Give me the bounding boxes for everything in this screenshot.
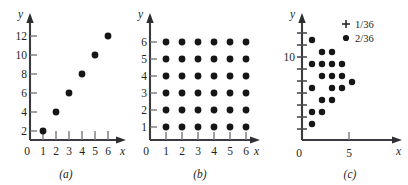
data-point (179, 107, 186, 114)
panel-c-y-tick-label: 10 (284, 51, 296, 63)
data-point (92, 52, 99, 59)
panel-a-y-axis-label: y (17, 8, 24, 21)
panel-c: y x 10 5 0 (262, 0, 408, 185)
panel-b-x-tick-label: 6 (243, 145, 249, 157)
data-point (309, 61, 315, 67)
panel-a-x-axis-arrow (116, 136, 126, 143)
panel-b-y-axis-arrow (146, 13, 153, 23)
legend-dot-icon (343, 35, 349, 41)
data-point (163, 56, 170, 63)
data-point (163, 39, 170, 46)
panel-a-origin-label: 0 (24, 145, 30, 157)
panel-c-data-points (309, 37, 355, 127)
panel-c-x-axis-label: x (395, 145, 402, 157)
data-point (339, 61, 345, 67)
data-point (339, 73, 345, 79)
legend-label-2-36: 2/36 (355, 33, 374, 44)
panel-b-y-tick-label: 5 (141, 53, 147, 65)
panel-b-x-axis-label: x (253, 145, 260, 157)
panel-b-x-tick-label: 3 (195, 145, 201, 157)
data-point (195, 73, 202, 80)
panel-a-x-tick-label: 2 (53, 145, 59, 157)
data-point (329, 85, 335, 91)
data-point (309, 37, 315, 43)
data-point (211, 124, 218, 131)
data-point (179, 90, 186, 97)
data-point (227, 124, 234, 131)
data-point (227, 73, 234, 80)
data-point (211, 107, 218, 114)
data-point (319, 97, 325, 103)
data-point (309, 121, 315, 127)
panel-c-caption: (c) (344, 168, 357, 181)
data-point (179, 39, 186, 46)
data-point (227, 90, 234, 97)
panel-a-y-tick-label: 12 (16, 30, 28, 42)
panel-a-y-tick-label: 8 (21, 68, 27, 80)
data-point (243, 124, 250, 131)
data-point (339, 85, 345, 91)
panel-b-data-points (163, 39, 250, 131)
data-point (195, 124, 202, 131)
data-point (227, 39, 234, 46)
panel-a-y-tick-label: 6 (21, 87, 27, 99)
panel-a-data-points (40, 33, 112, 135)
panel-b-y-tick-label: 2 (141, 104, 147, 116)
data-point (79, 71, 86, 78)
panel-b-x-axis-arrow (250, 136, 260, 143)
panel-b-x-tick-label: 1 (163, 145, 169, 157)
panel-a-x-tick-label: 1 (40, 145, 46, 157)
data-point (227, 107, 234, 114)
data-point (319, 73, 325, 79)
data-point (329, 73, 335, 79)
data-point (329, 61, 335, 67)
panel-b-y-tick-label: 3 (141, 87, 147, 99)
data-point (211, 90, 218, 97)
data-point (243, 39, 250, 46)
panel-a-x-tick-label: 3 (66, 145, 72, 157)
data-point (53, 109, 60, 116)
data-point (211, 73, 218, 80)
data-point (243, 73, 250, 80)
data-point (329, 49, 335, 55)
data-point (319, 61, 325, 67)
data-point (227, 56, 234, 63)
data-point (195, 39, 202, 46)
panel-b-y-axis-label: y (137, 8, 144, 21)
panel-a-y-tick-label: 2 (21, 125, 27, 137)
panel-c-legend: 1/36 2/36 (342, 19, 374, 44)
data-point (243, 90, 250, 97)
panel-c-plot: y x 10 5 0 (262, 0, 408, 185)
data-point (349, 79, 355, 85)
data-point (195, 56, 202, 63)
panel-b-y-tick-label: 6 (141, 36, 147, 48)
data-point (163, 90, 170, 97)
panel-b-x-tick-label: 4 (211, 145, 217, 157)
data-point (105, 33, 112, 40)
data-point (309, 85, 315, 91)
figure-container: y x 2 4 6 8 10 12 1 2 3 (0, 0, 408, 185)
data-point (319, 109, 325, 115)
panel-c-x-tick-label: 5 (346, 147, 352, 159)
panel-c-y-axis-arrow (298, 13, 305, 23)
data-point (163, 107, 170, 114)
panel-b-plot: y x 1 2 3 4 5 6 1 2 3 (132, 0, 264, 185)
panel-c-x-axis-arrow (392, 136, 402, 143)
panel-a-x-tick-label: 6 (105, 145, 111, 157)
panel-a-plot: y x 2 4 6 8 10 12 1 2 3 (0, 0, 134, 185)
panel-a: y x 2 4 6 8 10 12 1 2 3 (0, 0, 134, 185)
data-point (243, 56, 250, 63)
panel-c-origin-label: 0 (296, 147, 302, 159)
data-point (195, 90, 202, 97)
data-point (211, 56, 218, 63)
data-point (179, 56, 186, 63)
panel-a-x-axis-label: x (119, 145, 126, 157)
data-point (163, 73, 170, 80)
panel-a-y-tick-label: 4 (21, 106, 27, 118)
data-point (329, 97, 335, 103)
panel-a-y-tick-label: 10 (16, 49, 28, 61)
panel-a-caption: (a) (59, 168, 73, 181)
panel-b: y x 1 2 3 4 5 6 1 2 3 (132, 0, 264, 185)
panel-a-y-axis-arrow (26, 13, 33, 23)
data-point (309, 109, 315, 115)
